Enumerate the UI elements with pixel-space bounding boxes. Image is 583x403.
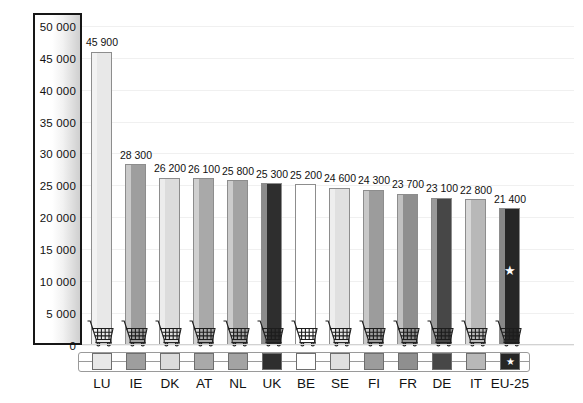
- y-axis-tick-label: 10 000: [40, 277, 76, 289]
- bar-value-label: 25 800: [222, 166, 254, 177]
- legend-swatch-de[interactable]: [432, 353, 452, 370]
- legend-swatch-it[interactable]: [466, 353, 486, 370]
- legend-swatch-at[interactable]: [194, 353, 214, 370]
- shopping-cart-icon: [85, 317, 119, 347]
- legend-swatch-fi[interactable]: [364, 353, 384, 370]
- legend-swatch-dk[interactable]: [160, 353, 180, 370]
- star-icon: ★: [504, 264, 516, 277]
- legend-swatch-ie[interactable]: [126, 353, 146, 370]
- shopping-cart-icon: [255, 317, 289, 347]
- legend-swatch-nl[interactable]: [228, 353, 248, 370]
- bar-group: 26 200: [153, 13, 187, 345]
- bar-highlight: [92, 53, 97, 344]
- y-axis-tick-label: 25 000: [40, 181, 76, 193]
- bar-group: 24 300: [357, 13, 391, 345]
- bar-group: 25 800: [221, 13, 255, 345]
- shopping-cart-icon: [391, 317, 425, 347]
- y-axis-tick-label: 35 000: [40, 118, 76, 130]
- bar-group: 23 700: [391, 13, 425, 345]
- shopping-cart-icon: [119, 317, 153, 347]
- y-axis-tick-label: 15 000: [40, 245, 76, 257]
- category-label-eu-25: EU-25: [485, 377, 535, 391]
- y-axis-tick-label: 0: [69, 341, 76, 353]
- bar-group: 23 100: [425, 13, 459, 345]
- shopping-cart-icon: [493, 317, 527, 347]
- y-axis-tick-label: 5 000: [46, 309, 76, 321]
- bar-lu[interactable]: [91, 52, 112, 345]
- y-axis-tick-label: 30 000: [40, 149, 76, 161]
- shopping-cart-icon: [425, 317, 459, 347]
- bar-value-label: 45 900: [86, 37, 118, 48]
- bar-value-label: 25 300: [256, 169, 288, 180]
- plot-area: 45 90028 30026 20026 10025 80025 30025 2…: [82, 13, 574, 345]
- legend-swatch-be[interactable]: [296, 353, 316, 370]
- bar-value-label: 24 300: [358, 175, 390, 186]
- bar-group: ★21 400: [493, 13, 527, 345]
- legend-swatch-lu[interactable]: [92, 353, 112, 370]
- bar-value-label: 24 600: [324, 173, 356, 184]
- bar-value-label: 26 100: [188, 164, 220, 175]
- y-axis-tick-label: 40 000: [40, 86, 76, 98]
- axis-baseline: [82, 344, 574, 345]
- bar-value-label: 28 300: [120, 150, 152, 161]
- bar-group: 45 900: [85, 13, 119, 345]
- legend-swatch-eu-25[interactable]: ★: [500, 353, 520, 370]
- shopping-cart-icon: [289, 317, 323, 347]
- bar-value-label: 21 400: [494, 194, 526, 205]
- legend-swatch-fr[interactable]: [398, 353, 418, 370]
- bar-group: 24 600: [323, 13, 357, 345]
- y-axis-tick-label: 50 000: [40, 22, 76, 34]
- y-axis-scale-box: 50 00045 00040 00035 00030 00025 00020 0…: [33, 13, 82, 345]
- bar-value-label: 26 200: [154, 163, 186, 174]
- bar-value-label: 23 100: [426, 183, 458, 194]
- shopping-cart-icon: [153, 317, 187, 347]
- bar-group: 28 300: [119, 13, 153, 345]
- y-axis-tick-label: 20 000: [40, 213, 76, 225]
- bar-value-label: 23 700: [392, 179, 424, 190]
- legend-swatch-uk[interactable]: [262, 353, 282, 370]
- bar-group: 26 100: [187, 13, 221, 345]
- bar-value-label: 25 200: [290, 170, 322, 181]
- legend-swatch-se[interactable]: [330, 353, 350, 370]
- shopping-cart-icon: [221, 317, 255, 347]
- shopping-cart-icon: [187, 317, 221, 347]
- shopping-cart-icon: [323, 317, 357, 347]
- bar-value-label: 22 800: [460, 185, 492, 196]
- star-icon: ★: [506, 357, 515, 367]
- bar-group: 25 300: [255, 13, 289, 345]
- bar-group: 25 200: [289, 13, 323, 345]
- y-axis-tick-label: 45 000: [40, 54, 76, 66]
- shopping-cart-icon: [357, 317, 391, 347]
- shopping-cart-icon: [459, 317, 493, 347]
- bar-chart: 45 90028 30026 20026 10025 80025 30025 2…: [0, 0, 583, 403]
- bar-group: 22 800: [459, 13, 493, 345]
